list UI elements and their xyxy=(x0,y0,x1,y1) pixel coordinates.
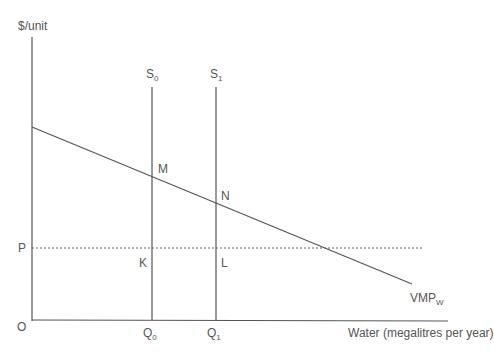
point-l-label: L xyxy=(221,256,228,270)
point-m-label: M xyxy=(158,162,168,176)
x-axis-label: Water (megalitres per year) xyxy=(348,326,494,340)
q0-tick-label: Q0 xyxy=(143,326,157,345)
vmp-label: VMPW xyxy=(410,291,444,310)
q1-tick-label: Q1 xyxy=(207,326,221,345)
y-axis-label: $/unit xyxy=(18,19,47,33)
price-label: P xyxy=(18,241,26,255)
origin-label: O xyxy=(17,320,26,334)
x-axis xyxy=(32,320,448,321)
point-k-label: K xyxy=(139,256,147,270)
point-n-label: N xyxy=(221,189,230,203)
s0-label: S0 xyxy=(146,67,158,86)
s1-label: S1 xyxy=(210,67,222,86)
